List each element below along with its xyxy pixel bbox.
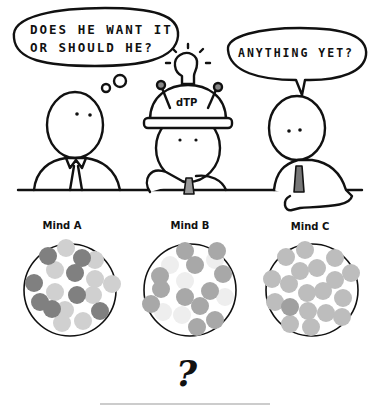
illustration: DOES HE WANT IT OR SHOULD HE? ANYTHING Y… (0, 0, 375, 407)
right-person-body (274, 160, 352, 210)
mind-c-graphic (263, 241, 360, 336)
speech-bubble (228, 28, 366, 95)
left-person-head (47, 92, 103, 158)
helmet-rim (144, 118, 232, 128)
right-person-tie (294, 166, 304, 192)
middle-person-tie (184, 178, 194, 194)
cartoon-drawing (0, 0, 375, 407)
helmet-label: dTP (176, 97, 197, 108)
middle-person-body (196, 176, 226, 190)
speech-bubble-text: ANYTHING YET? (238, 45, 354, 61)
thought-bubble-line-2: OR SHOULD HE? (30, 40, 154, 56)
middle-person-arm (147, 171, 184, 192)
question-mark: ? (176, 352, 197, 394)
thought-bubble-line-1: DOES HE WANT IT (30, 22, 173, 38)
mind-c-label: Mind C (270, 221, 350, 232)
right-person-head (269, 96, 325, 160)
lightbulb (175, 53, 197, 84)
mind-b-graphic (142, 242, 236, 336)
thought-dot-1 (114, 75, 126, 87)
mind-b-label: Mind B (150, 220, 230, 231)
mind-a-label: Mind A (22, 220, 102, 231)
thought-dot-2 (102, 84, 110, 92)
mind-a-graphic (24, 239, 121, 336)
